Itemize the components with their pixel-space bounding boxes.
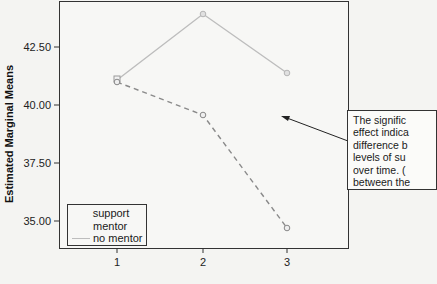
y-tick-label: 42.50: [23, 41, 51, 53]
callout-line: levels of su: [353, 151, 436, 163]
x-axis: 1 2 3: [114, 248, 290, 268]
annotation-callout: The signific effect indica difference b …: [347, 110, 437, 190]
y-axis-title: Estimated Marginal Means: [3, 65, 15, 203]
legend-swatch-mentor: [72, 225, 90, 226]
callout-line: over time. (: [353, 164, 436, 176]
legend-title: support: [68, 207, 146, 220]
legend-swatch-no-mentor: [72, 238, 90, 239]
callout-line: difference b: [353, 139, 436, 151]
legend: support mentor no mentor: [67, 204, 147, 246]
y-axis: 42.50 40.00 37.50 35.00 Estimated Margin…: [3, 41, 59, 227]
legend-item-no-mentor: no mentor: [68, 232, 146, 245]
x-tick-label: 2: [200, 256, 206, 268]
callout-line: effect indica: [353, 126, 436, 138]
legend-label: mentor: [93, 220, 127, 233]
callout-line: lines chang: [353, 188, 436, 190]
x-tick-label: 3: [284, 256, 290, 268]
callout-line: The signific: [353, 114, 436, 126]
x-tick-label: 1: [114, 256, 120, 268]
legend-label: no mentor: [93, 232, 143, 245]
y-tick-label: 35.00: [23, 215, 51, 227]
y-tick-label: 40.00: [23, 99, 51, 111]
y-tick-label: 37.50: [23, 157, 51, 169]
legend-item-mentor: mentor: [68, 220, 146, 233]
callout-line: between the: [353, 176, 436, 188]
